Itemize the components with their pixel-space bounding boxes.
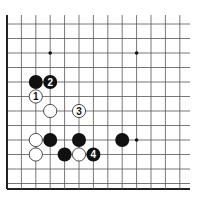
move-number-label: 1 <box>33 91 39 102</box>
black-stone <box>58 148 72 162</box>
white-stone-icon <box>44 104 57 117</box>
white-stone-icon <box>72 148 85 161</box>
black-stone <box>115 133 129 147</box>
star-point-icon <box>135 138 139 142</box>
white-stone <box>29 148 42 161</box>
black-stone-icon <box>72 133 86 147</box>
black-stone-icon <box>29 75 43 89</box>
go-board: 2134 <box>0 0 202 202</box>
white-stone-1: 1 <box>29 90 42 103</box>
black-stone <box>72 133 86 147</box>
black-stone-icon <box>115 133 129 147</box>
white-stone <box>29 133 42 146</box>
black-stone-2: 2 <box>43 75 57 89</box>
white-stone <box>72 148 85 161</box>
star-point-icon <box>48 51 52 55</box>
star-point-icon <box>135 51 139 55</box>
white-stone-icon <box>29 133 42 146</box>
move-number-label: 3 <box>76 106 82 117</box>
move-number-label: 2 <box>47 77 53 88</box>
black-stone <box>29 75 43 89</box>
white-stone-icon <box>29 148 42 161</box>
black-stone <box>43 133 57 147</box>
black-stone-icon <box>58 148 72 162</box>
black-stone-4: 4 <box>86 148 100 162</box>
move-number-label: 4 <box>91 149 97 160</box>
black-stone-icon <box>43 133 57 147</box>
white-stone-3: 3 <box>72 104 85 117</box>
white-stone <box>44 104 57 117</box>
